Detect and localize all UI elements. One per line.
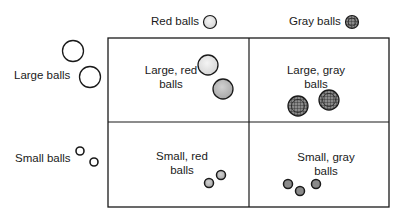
cell-label-large-gray: Large, gray balls <box>275 63 357 91</box>
large-gray-balls <box>288 90 339 116</box>
column-header-gray-balls: Gray balls <box>289 15 341 28</box>
small-ball-icon <box>76 147 98 166</box>
row-header-large-balls: Large balls <box>14 69 70 82</box>
cell-label-large-red: Large, red balls <box>132 63 210 91</box>
small-gray-balls <box>284 180 321 196</box>
column-header-red-balls: Red balls <box>151 15 199 28</box>
row-header-small-balls: Small balls <box>15 152 71 165</box>
cell-label-small-red: Small, red balls <box>143 149 221 177</box>
classification-grid <box>0 0 402 220</box>
gray-ball-icon <box>346 16 359 29</box>
cell-label-small-gray: Small, gray balls <box>285 150 367 178</box>
red-ball-icon <box>204 16 217 29</box>
